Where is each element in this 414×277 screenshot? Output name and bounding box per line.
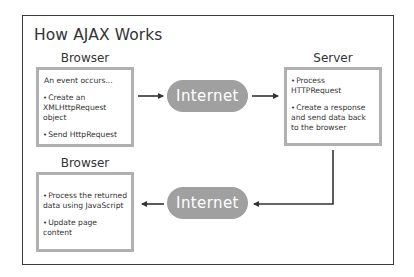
bullet: • — [43, 94, 47, 102]
server-line: •Create a response and send data back to… — [291, 103, 375, 133]
diagram-title: How AJAX Works — [34, 26, 163, 44]
internet-top-pill: Internet — [167, 80, 248, 112]
line-text: An event occurs... — [44, 76, 113, 85]
line-text: Process the returned data using JavaScri… — [43, 191, 127, 210]
line-text: Send HttpRequest — [48, 130, 117, 139]
browser-bottom-line: •Process the returned data using JavaScr… — [43, 191, 127, 211]
bullet: • — [43, 192, 47, 200]
line-text: Update page content — [43, 218, 97, 237]
browser-top-line: •Create an XMLHttpRequest object — [43, 93, 127, 123]
browser-top-box: An event occurs... •Create an XMLHttpReq… — [36, 67, 134, 147]
browser-top-line: An event occurs... — [43, 76, 127, 86]
bullet: • — [291, 77, 295, 85]
server-label: Server — [284, 51, 382, 65]
line-text: Process HTTPRequest — [291, 76, 341, 95]
internet-bottom-pill: Internet — [167, 187, 248, 219]
browser-top-line: •Send HttpRequest — [43, 130, 127, 140]
browser-bottom-box: •Process the returned data using JavaScr… — [36, 172, 134, 252]
line-text: Create an XMLHttpRequest object — [43, 93, 106, 122]
browser-bottom-line: •Update page content — [43, 218, 127, 238]
browser-bottom-label: Browser — [36, 156, 134, 170]
server-line: •Process HTTPRequest — [291, 76, 375, 96]
line-text: Create a response and send data back to … — [291, 103, 366, 132]
bullet: • — [291, 104, 295, 112]
bullet: • — [43, 219, 47, 227]
bullet: • — [43, 131, 47, 139]
server-box: •Process HTTPRequest •Create a response … — [284, 67, 382, 146]
browser-top-label: Browser — [36, 51, 134, 65]
